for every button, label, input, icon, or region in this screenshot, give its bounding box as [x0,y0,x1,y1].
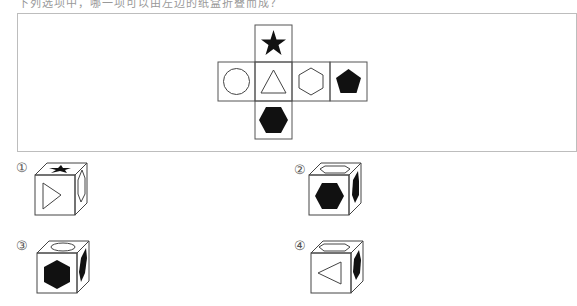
black-hexagon-icon [353,250,361,280]
hexagon-icon [78,170,85,202]
hexagon-icon [299,68,323,95]
option-4-cube[interactable] [308,238,368,298]
cube-net [0,0,561,160]
option-3-label: ③ [16,238,28,253]
black-hexagon-icon [315,183,344,209]
triangle-icon [261,70,286,93]
option-2-cube[interactable] [305,160,365,220]
hexagon-icon [319,244,350,251]
star-icon [49,165,71,173]
black-hexagon-icon [259,107,288,133]
star-icon [261,30,286,55]
circle-icon [224,69,250,95]
option-1-label: ① [16,160,28,175]
option-4-label: ④ [294,238,306,253]
black-hexagon-icon [44,260,70,289]
black-hexagon-icon [79,248,87,282]
option-3-cube[interactable] [32,238,92,298]
hexagon-icon [320,166,350,173]
black-hexagon-icon [352,171,359,203]
pentagon-icon [336,69,361,93]
circle-icon [51,243,75,251]
triangle-icon [43,183,61,209]
option-1-cube[interactable] [30,160,90,220]
triangle-icon [318,262,341,284]
